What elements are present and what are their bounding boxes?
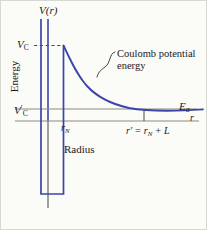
y-axis-top-label: V(r) — [39, 5, 57, 16]
barrier-peak-label: VC — [17, 39, 29, 51]
x-axis-symbol: r — [190, 113, 194, 123]
coulomb-annotation: Coulomb potential energy — [117, 48, 195, 73]
rn-subscript: N — [65, 127, 70, 134]
ea-subscript: α — [186, 105, 190, 114]
diagram-canvas — [1, 1, 207, 230]
vc-subscript: C — [24, 43, 29, 52]
vc-base: V — [17, 38, 24, 50]
x-axis-title: Radius — [64, 144, 95, 155]
nuclear-radius-label: rN — [61, 123, 69, 134]
alpha-energy-label: Eα — [179, 101, 190, 113]
vcp-subscript: C — [23, 109, 28, 118]
potential-well-path — [41, 46, 64, 195]
y-axis-title: Energy — [9, 52, 20, 102]
barrier-at-rprime-label: V′C — [14, 104, 28, 117]
ea-base: E — [179, 100, 186, 112]
potential-energy-figure: V(r) Energy VC V′C rN Radius r′ = rN + L… — [0, 0, 207, 230]
rprime-tail: + L — [152, 125, 169, 136]
vcp-base: V — [14, 104, 21, 116]
tunnel-exit-label: r′ = rN + L — [126, 126, 170, 137]
coulomb-annotation-line2: energy — [117, 60, 195, 72]
annotation-leader-line — [97, 52, 115, 77]
coulomb-annotation-line1: Coulomb potential — [117, 48, 195, 60]
rprime-lead: r′ = r — [126, 125, 148, 136]
